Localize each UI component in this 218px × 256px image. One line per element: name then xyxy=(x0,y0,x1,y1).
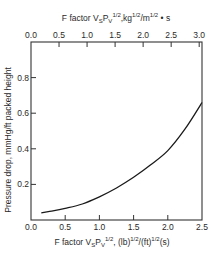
y-tick-label: 0.4 xyxy=(17,144,29,154)
x2-tick-label: 1.0 xyxy=(81,30,93,40)
x-tick-label: 1.0 xyxy=(93,222,105,232)
bottom-axis-ticks: 0.00.51.01.52.02.5 xyxy=(25,215,208,232)
y-axis-title: Pressure drop, mmHg/ft packed height xyxy=(3,67,13,213)
x2-tick-label: 1.5 xyxy=(109,30,121,40)
top-axis-title: F factor VSPV1/2,kg1/2/m1/2 • s xyxy=(62,12,170,24)
y-tick-label: 0.8 xyxy=(17,73,29,83)
x-tick-label: 2.5 xyxy=(196,222,208,232)
x2-tick-label: 2.0 xyxy=(137,30,149,40)
x-tick-label: 0.5 xyxy=(59,222,71,232)
x2-tick-label: 0.0 xyxy=(25,30,37,40)
bottom-axis-title: F factor VSPV1/2, (lb)1/2/(ft)1/2(s) xyxy=(54,236,169,248)
x-tick-label: 0.0 xyxy=(25,222,37,232)
plot-frame xyxy=(31,42,202,220)
left-axis-ticks: 0.20.40.60.8 xyxy=(17,73,36,190)
x-tick-label: 2.0 xyxy=(162,222,174,232)
pressure-drop-chart: 0.00.51.01.52.02.53.0 0.00.51.01.52.02.5… xyxy=(0,0,218,256)
top-axis-ticks: 0.00.51.01.52.02.53.0 xyxy=(25,30,205,47)
x-tick-label: 1.5 xyxy=(128,222,140,232)
pressure-drop-curve xyxy=(41,103,202,213)
x2-tick-label: 2.5 xyxy=(165,30,177,40)
x2-tick-label: 0.5 xyxy=(53,30,65,40)
y-tick-label: 0.6 xyxy=(17,108,29,118)
y-tick-label: 0.2 xyxy=(17,179,29,189)
x2-tick-label: 3.0 xyxy=(193,30,205,40)
